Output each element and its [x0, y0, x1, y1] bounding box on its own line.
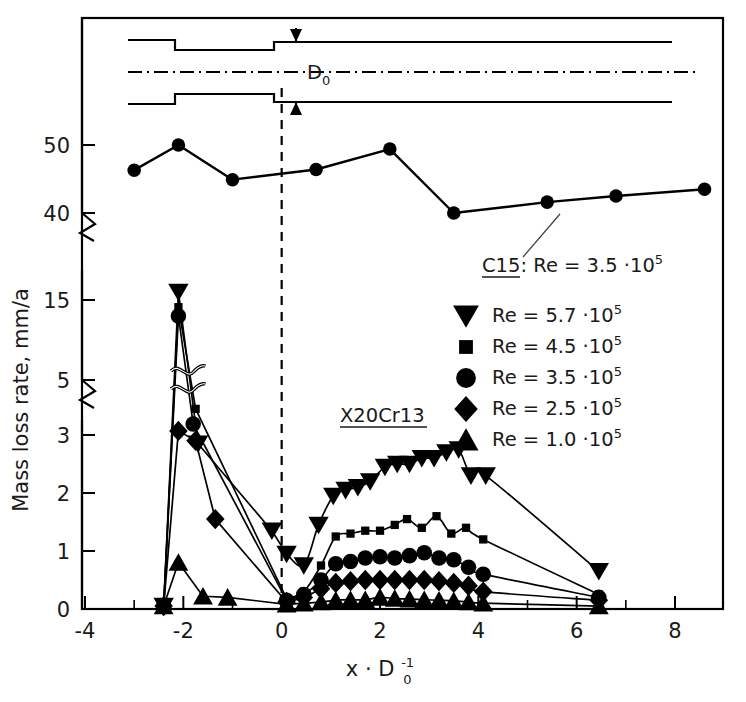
data-point-circle	[309, 163, 323, 177]
data-point-square	[361, 527, 369, 535]
data-point-triangle-down	[589, 563, 609, 581]
x-axis-tick-label: 6	[570, 619, 583, 643]
x-axis-tick-label: -2	[173, 619, 194, 643]
x-axis-tick-label: 0	[275, 619, 288, 643]
legend-item-4[interactable]: Re = 1.0 ·105	[453, 426, 621, 451]
y-axis-tick-label: 5	[57, 369, 70, 393]
y-axis-tick-label: 3	[57, 424, 70, 448]
data-point-square	[191, 405, 199, 413]
legend-item-label: Re = 4.5 ·105	[492, 333, 622, 358]
legend-item-label: Re = 3.5 ·105	[492, 364, 622, 389]
data-point-circle	[416, 545, 432, 561]
y-axis: 01235154050Mass loss rate, mm/a	[9, 18, 95, 622]
data-point-square	[332, 532, 340, 540]
data-point-square	[346, 529, 354, 537]
legend-item-3[interactable]: Re = 2.5 ·105	[454, 395, 622, 422]
data-point-diamond	[444, 573, 463, 593]
x-axis-tick-label: 8	[668, 619, 681, 643]
series-line-upstream	[164, 431, 287, 606]
arrow-up-icon	[290, 102, 302, 115]
y-axis-tick-label: 15	[43, 289, 70, 313]
data-point-square	[418, 524, 426, 532]
pipe-lower-wall	[128, 94, 672, 104]
y-axis-tick-label: 50	[43, 134, 70, 158]
data-point-diamond	[326, 573, 345, 593]
y-axis-tick-label: 1	[57, 540, 70, 564]
data-point-square	[391, 521, 399, 529]
legend-item-0[interactable]: Re = 5.7 ·105	[453, 302, 622, 328]
data-point-circle	[127, 163, 141, 177]
data-point-circle	[461, 559, 477, 575]
pipe-upper-wall	[128, 40, 672, 50]
data-point-square	[462, 524, 470, 532]
data-point-triangle-down	[262, 522, 282, 540]
data-point-triangle-up	[453, 428, 478, 450]
material-label-text: X20Cr13	[340, 404, 425, 427]
data-point-square	[459, 340, 473, 354]
data-point-diamond	[454, 396, 478, 422]
data-point-circle	[357, 550, 373, 566]
data-point-circle	[343, 554, 359, 570]
data-point-circle	[402, 548, 418, 564]
data-point-circle	[372, 549, 388, 565]
x-axis-tick-label: -4	[75, 619, 96, 643]
data-point-square	[376, 527, 384, 535]
y-axis-title: Mass loss rate, mm/a	[9, 288, 33, 512]
legend-item-label: Re = 1.0 ·105	[492, 426, 622, 451]
legend-item-1[interactable]: Re = 4.5 ·105	[459, 333, 622, 358]
data-point-circle	[431, 550, 447, 566]
data-point-circle	[609, 189, 623, 203]
data-point-square	[317, 561, 325, 569]
data-point-circle	[171, 308, 187, 324]
data-point-triangle-down	[294, 557, 314, 575]
c15-annotation: C15: Re = 3.5 ·105	[482, 214, 663, 277]
data-point-triangle-down	[168, 284, 188, 302]
x-axis: -4-202468x · D -10	[75, 596, 723, 687]
data-point-circle	[540, 195, 554, 209]
y-axis-tick-label: 0	[57, 598, 70, 622]
legend: Re = 5.7 ·105Re = 4.5 ·105Re = 3.5 ·105R…	[453, 302, 622, 451]
data-point-triangle-down	[453, 306, 479, 328]
data-point-circle	[447, 206, 461, 220]
legend-item-2[interactable]: Re = 3.5 ·105	[456, 364, 622, 389]
data-point-circle	[185, 416, 201, 432]
pipe-schematic: D0	[128, 28, 700, 115]
data-point-triangle-up	[193, 587, 213, 605]
legend-item-label: Re = 5.7 ·105	[492, 302, 622, 327]
data-point-square	[403, 515, 411, 523]
c15-annotation-text: C15: Re = 3.5 ·105	[482, 252, 663, 277]
data-point-circle	[456, 368, 476, 388]
data-point-triangle-up	[370, 588, 390, 606]
data-point-circle	[226, 173, 240, 187]
data-point-circle	[446, 552, 462, 568]
chart-figure: D001235154050Mass loss rate, mm/a-4-2024…	[0, 0, 746, 702]
data-point-circle	[387, 550, 403, 566]
data-point-circle	[383, 142, 397, 156]
data-point-circle	[475, 566, 491, 582]
annotation-leader-line	[523, 214, 560, 257]
data-point-diamond	[430, 571, 449, 591]
legend-item-label: Re = 2.5 ·105	[492, 395, 622, 420]
data-point-square	[447, 529, 455, 537]
y-axis-tick-label: 40	[43, 202, 70, 226]
d0-dimension-label: D0	[307, 61, 330, 88]
x-axis-title: x · D -10	[346, 655, 414, 687]
data-point-circle	[698, 182, 712, 196]
data-point-square	[432, 512, 440, 520]
series-line-c15	[134, 145, 704, 213]
data-point-circle	[328, 556, 344, 572]
series-c15	[127, 138, 711, 220]
data-point-triangle-down	[308, 517, 328, 535]
y-axis-tick-label: 2	[57, 482, 70, 506]
material-annotation: X20Cr13	[340, 404, 427, 427]
data-point-triangle-up	[169, 553, 189, 571]
chart-canvas: D001235154050Mass loss rate, mm/a-4-2024…	[0, 0, 746, 702]
arrow-down-icon	[290, 29, 302, 42]
x-axis-tick-label: 2	[373, 619, 386, 643]
data-point-circle	[172, 138, 186, 152]
x-axis-tick-label: 4	[472, 619, 485, 643]
data-point-square	[479, 535, 487, 543]
